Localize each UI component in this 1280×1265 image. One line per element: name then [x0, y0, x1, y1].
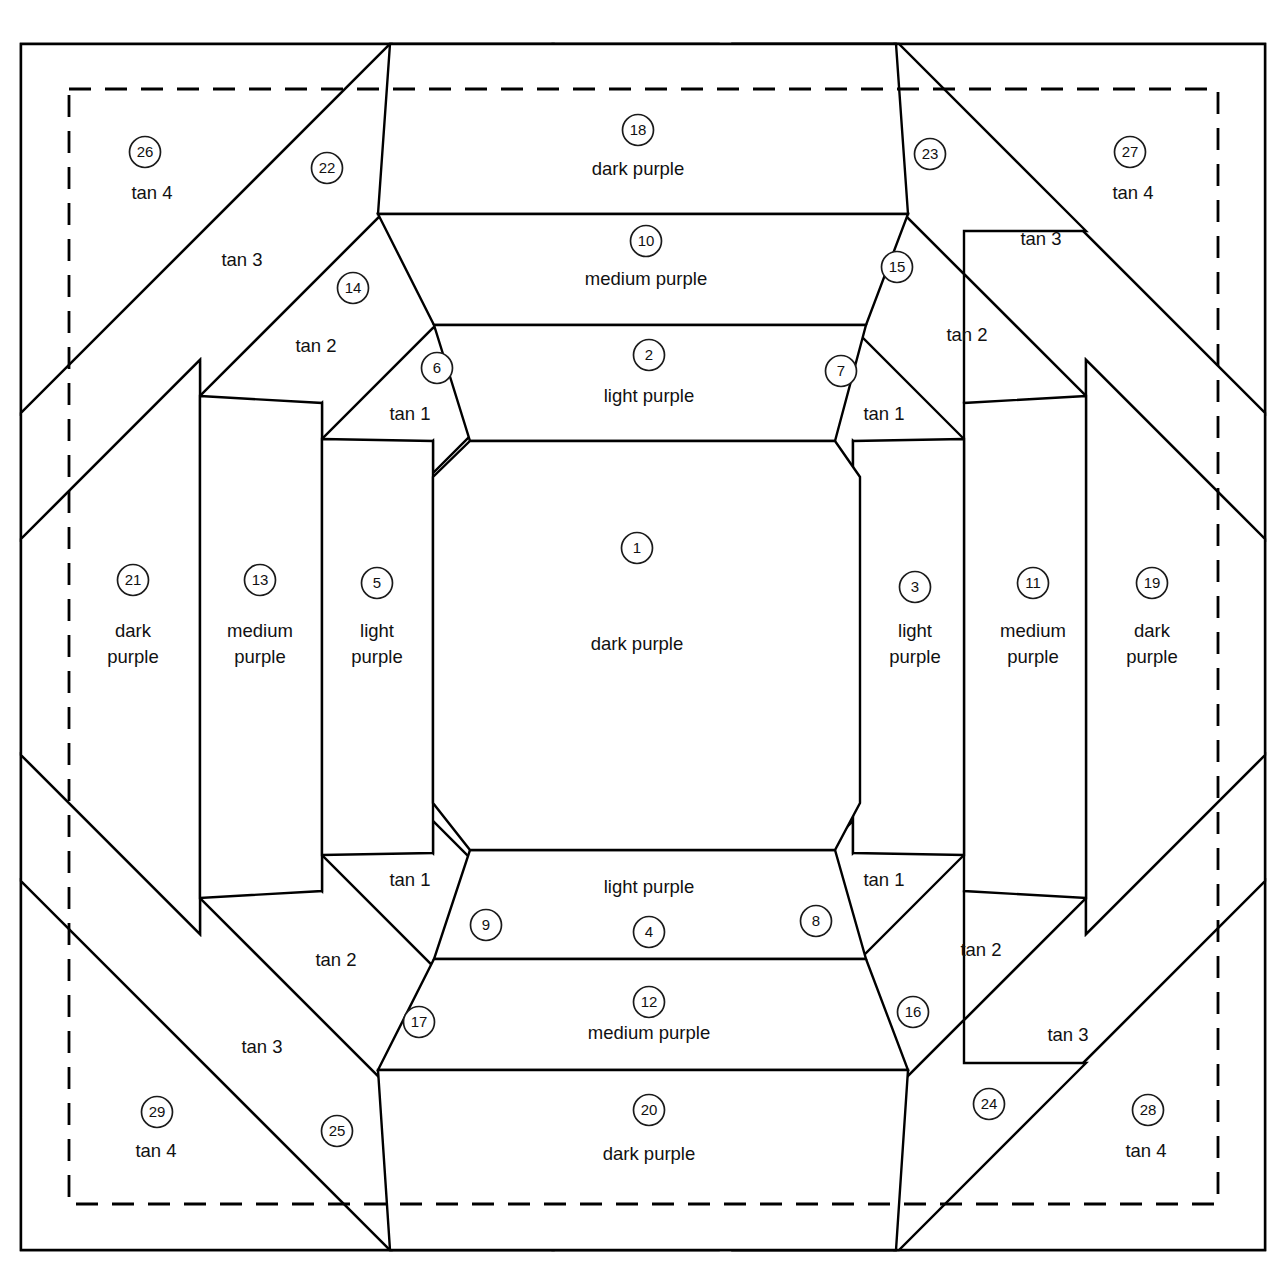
fabric-label-28: tan 4 — [1125, 1140, 1166, 1161]
fabric-label-8: tan 1 — [863, 869, 904, 890]
fabric-label-24: tan 3 — [1047, 1024, 1088, 1045]
piece-number-label-6: 6 — [433, 359, 441, 376]
fabric-label-20: dark purple — [603, 1143, 696, 1164]
piece-number-label-27: 27 — [1122, 143, 1139, 160]
piece-number-label-1: 1 — [633, 539, 641, 556]
piece-number-label-17: 17 — [411, 1013, 428, 1030]
fabric-label-7: tan 1 — [863, 403, 904, 424]
piece-number-label-13: 13 — [252, 571, 269, 588]
piece-number-label-20: 20 — [641, 1101, 658, 1118]
piece-number-label-21: 21 — [125, 571, 142, 588]
piece-number-label-3: 3 — [911, 578, 919, 595]
piece-number-label-11: 11 — [1025, 574, 1041, 591]
piece-number-label-23: 23 — [922, 145, 939, 162]
piece-number-label-8: 8 — [812, 912, 820, 929]
piece-number-label-2: 2 — [645, 346, 653, 363]
piece-number-label-9: 9 — [482, 916, 490, 933]
fabric-label-25: tan 3 — [241, 1036, 282, 1057]
piece-number-label-25: 25 — [329, 1122, 346, 1139]
fabric-label-1: dark purple — [591, 633, 684, 654]
fabric-label-10: medium purple — [585, 268, 707, 289]
piece-number-label-22: 22 — [319, 159, 336, 176]
fabric-label-27: tan 4 — [1112, 182, 1153, 203]
fabric-label-9: tan 1 — [389, 869, 430, 890]
piece-number-label-18: 18 — [630, 121, 647, 138]
piece-number-label-5: 5 — [373, 574, 381, 591]
piece-number-label-10: 10 — [638, 232, 655, 249]
piece-number-label-14: 14 — [345, 279, 362, 296]
fabric-label-26: tan 4 — [131, 182, 172, 203]
fabric-label-14: tan 2 — [295, 335, 336, 356]
piece-number-label-24: 24 — [981, 1095, 998, 1112]
fabric-label-15: tan 2 — [946, 324, 987, 345]
piece-number-label-4: 4 — [645, 923, 653, 940]
piece-number-label-28: 28 — [1140, 1101, 1157, 1118]
fabric-label-6: tan 1 — [389, 403, 430, 424]
piece-number-label-19: 19 — [1144, 574, 1161, 591]
fabric-label-12: medium purple — [588, 1022, 710, 1043]
piece-number-label-7: 7 — [837, 362, 845, 379]
piece-number-label-12: 12 — [641, 993, 658, 1010]
fabric-label-18: dark purple — [592, 158, 685, 179]
piece-number-label-16: 16 — [905, 1003, 922, 1020]
fabric-label-23: tan 3 — [1020, 228, 1061, 249]
fabric-label-22: tan 3 — [221, 249, 262, 270]
fabric-label-17: tan 2 — [315, 949, 356, 970]
fabric-label-2: light purple — [604, 385, 695, 406]
piece-number-label-26: 26 — [137, 143, 154, 160]
fabric-label-16: tan 2 — [960, 939, 1001, 960]
fabric-label-4: light purple — [604, 876, 695, 897]
quilt-block-diagram: 1dark purple2light purple3lightpurple4li… — [0, 0, 1280, 1265]
piece-number-label-29: 29 — [149, 1103, 166, 1120]
piece-number-label-15: 15 — [889, 258, 906, 275]
fabric-label-29: tan 4 — [135, 1140, 176, 1161]
